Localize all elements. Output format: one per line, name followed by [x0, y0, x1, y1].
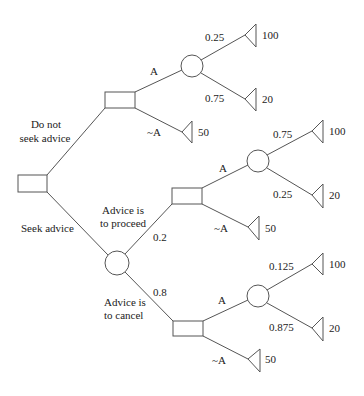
label-top-p-lo: 0.75 [205, 92, 225, 104]
payoff-top-notA: 50 [198, 126, 210, 138]
label-bot-notA: ~A [212, 354, 226, 366]
terminal-bot-lo-icon [312, 317, 323, 341]
terminal-top-lo-icon [245, 88, 256, 111]
decision-node-proceed [172, 188, 202, 204]
chance-node-bottom [247, 285, 269, 307]
terminal-top-hi-icon [245, 24, 256, 47]
label-p-cancel: 0.8 [153, 286, 167, 298]
decision-tree-diagram: Do not seek advice Seek advice Advice is… [0, 0, 364, 396]
label-p-proceed: 0.2 [153, 231, 167, 243]
decision-node-no-advice [105, 92, 135, 108]
terminal-top-notA-icon [182, 121, 192, 143]
label-bot-p-hi: 0.125 [269, 260, 294, 272]
label-top-p-hi: 0.25 [205, 31, 225, 43]
payoff-mid-lo: 20 [329, 189, 341, 201]
label-mid-p-lo: 0.25 [273, 188, 293, 200]
chance-node-mid [247, 150, 269, 172]
label-cancel-1: Advice is [104, 296, 146, 308]
label-cancel-2: to cancel [104, 309, 143, 321]
chance-node-advice [105, 251, 129, 275]
label-do-not-seek-1: Do not [31, 118, 61, 130]
label-top-A: A [150, 65, 158, 77]
label-bot-p-lo: 0.875 [269, 321, 294, 333]
payoff-bot-hi: 100 [329, 258, 346, 270]
label-seek-advice: Seek advice [21, 222, 74, 234]
label-bot-A: A [218, 294, 226, 306]
terminal-mid-lo-icon [312, 184, 323, 208]
decision-node-root [18, 175, 47, 192]
label-mid-notA: ~A [214, 222, 228, 234]
payoff-bot-notA: 50 [265, 353, 277, 365]
label-mid-A: A [219, 162, 227, 174]
terminal-mid-notA-icon [248, 216, 259, 240]
payoff-top-lo: 20 [262, 93, 274, 105]
label-proceed-1: Advice is [102, 204, 144, 216]
payoff-mid-hi: 100 [329, 125, 346, 137]
terminal-bot-notA-icon [248, 349, 260, 372]
terminal-bot-hi-icon [312, 253, 323, 275]
chance-node-top [181, 55, 203, 77]
payoff-bot-lo: 20 [329, 322, 341, 334]
payoff-top-hi: 100 [262, 29, 279, 41]
label-mid-p-hi: 0.75 [273, 128, 293, 140]
label-do-not-seek-2: seek advice [20, 132, 71, 144]
terminal-mid-hi-icon [312, 120, 323, 143]
decision-node-cancel [173, 321, 203, 336]
label-proceed-2: to proceed [100, 217, 147, 229]
payoff-mid-notA: 50 [265, 222, 277, 234]
label-top-notA: ~A [147, 126, 161, 138]
